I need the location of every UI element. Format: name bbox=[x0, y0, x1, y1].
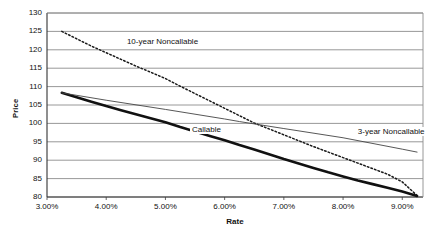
plot-canvas bbox=[0, 0, 436, 236]
y-tick-label: 130 bbox=[16, 8, 42, 17]
x-axis-title: Rate bbox=[175, 217, 295, 226]
y-tick-label: 100 bbox=[16, 118, 42, 127]
x-tick-label: 8.00% bbox=[320, 202, 366, 211]
x-tick-label: 9.00% bbox=[379, 202, 425, 211]
y-tick-label: 115 bbox=[16, 63, 42, 72]
y-tick-label: 90 bbox=[16, 155, 42, 164]
y-tick-label: 110 bbox=[16, 82, 42, 91]
y-tick-label: 80 bbox=[16, 192, 42, 201]
y-tick-label: 85 bbox=[16, 174, 42, 183]
x-tick-label: 4.00% bbox=[83, 202, 129, 211]
y-tick-label: 95 bbox=[16, 137, 42, 146]
x-tick-label: 7.00% bbox=[261, 202, 307, 211]
series-annotation: Callable bbox=[190, 125, 223, 134]
x-tick-label: 6.00% bbox=[202, 202, 248, 211]
x-tick-label: 5.00% bbox=[142, 202, 188, 211]
y-tick-label: 120 bbox=[16, 45, 42, 54]
price-rate-line-chart: Price 80859095100105110115120125130 3.00… bbox=[0, 0, 436, 236]
series-annotation: 3-year Noncallable bbox=[356, 127, 427, 136]
y-tick-label: 105 bbox=[16, 100, 42, 109]
x-tick-label: 3.00% bbox=[24, 202, 70, 211]
series-annotation: 10-year Noncallable bbox=[125, 37, 200, 46]
y-tick-label: 125 bbox=[16, 26, 42, 35]
